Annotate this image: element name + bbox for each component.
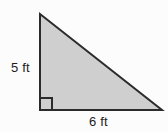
right-triangle-shape: [40, 14, 162, 110]
vertical-leg-label: 5 ft: [11, 61, 30, 74]
horizontal-leg-label: 6 ft: [89, 115, 108, 128]
geometry-figure: 5 ft 6 ft: [0, 0, 168, 132]
